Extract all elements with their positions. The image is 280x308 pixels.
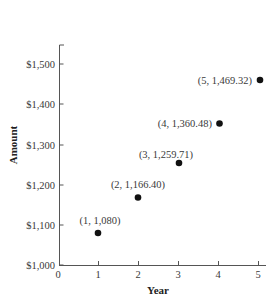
point-labels: (1, 1,080) (2, 1,166.40) (3, 1,259.71) (… <box>79 75 252 228</box>
x-tick-label: 1 <box>95 269 100 280</box>
y-tick-label: $1,000 <box>26 260 55 271</box>
data-point <box>216 120 223 127</box>
data-point <box>95 230 102 237</box>
point-label: (4, 1,360.48) <box>158 118 213 130</box>
point-label: (5, 1,469.32) <box>198 75 253 87</box>
point-label: (2, 1,166.40) <box>111 179 166 191</box>
x-tick-label: 0 <box>55 269 60 280</box>
point-label: (1, 1,080) <box>79 215 121 227</box>
data-point <box>257 77 264 84</box>
y-tick-label: $1,100 <box>26 220 55 231</box>
x-tick-label: 5 <box>255 269 260 280</box>
y-tick-label: $1,300 <box>26 140 55 151</box>
y-ticks: $1,000 $1,100 $1,200 $1,300 $1,400 $1,50… <box>26 59 63 271</box>
data-point <box>176 160 183 167</box>
y-axis-title: Amount <box>7 125 19 164</box>
data-point <box>135 194 142 201</box>
x-tick-label: 4 <box>215 269 221 280</box>
x-ticks: 0 1 2 3 4 5 <box>55 261 260 280</box>
x-axis-title: Year <box>147 284 169 296</box>
y-tick-label: $1,200 <box>26 180 55 191</box>
x-tick-label: 3 <box>175 269 180 280</box>
y-tick-label: $1,400 <box>26 99 55 110</box>
scatter-chart: $1,000 $1,100 $1,200 $1,300 $1,400 $1,50… <box>0 0 280 308</box>
point-label: (3, 1,259.71) <box>139 149 194 161</box>
x-tick-label: 2 <box>135 269 140 280</box>
y-tick-label: $1,500 <box>26 59 55 70</box>
